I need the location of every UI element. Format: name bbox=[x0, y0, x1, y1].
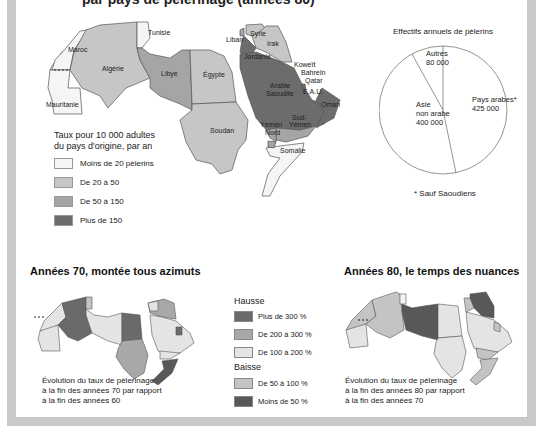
legend-label: De 200 à 300 % bbox=[258, 330, 312, 339]
caption-line1: Évolution du taux de pèlerinage bbox=[345, 376, 465, 386]
map80-tunisie bbox=[400, 294, 406, 304]
legend-label: Moins de 20 pèlerins bbox=[80, 159, 154, 168]
caption-line1: Évolution du taux de pèlerinage bbox=[42, 376, 162, 386]
map70-tunisie bbox=[86, 297, 92, 309]
label-libye: Libye bbox=[161, 70, 178, 78]
legend-label: Moins de 50 % bbox=[258, 397, 308, 406]
legend-title-line1: Taux pour 10 000 adultes bbox=[54, 130, 155, 141]
map-80 bbox=[342, 290, 522, 385]
label-sud-yemen-2: Yémen bbox=[289, 121, 311, 129]
pie-label-autres-name: Autres bbox=[426, 49, 449, 58]
legend-item-50-150: De 50 à 150 bbox=[54, 196, 124, 207]
caption-line2: à la fin des années 70 par rapport bbox=[42, 386, 162, 396]
legend-label: De 100 à 200 % bbox=[258, 348, 312, 357]
map70-golfe bbox=[176, 327, 182, 335]
pie-label-asie-value: 400 000 bbox=[416, 118, 450, 127]
frame-left bbox=[7, 0, 16, 426]
legend-item-lt20: Moins de 20 pèlerins bbox=[54, 158, 154, 169]
pie-label-autres: Autres 80 000 bbox=[426, 49, 449, 67]
legend-baisse-50-100: De 50 à 100 % bbox=[234, 378, 308, 389]
legend-swatch bbox=[54, 196, 73, 207]
map70-soudan bbox=[116, 339, 148, 379]
legend-hausse-100-200: De 100 à 200 % bbox=[234, 347, 312, 358]
map80-libye bbox=[402, 304, 438, 340]
pie-label-autres-value: 80 000 bbox=[426, 58, 449, 67]
pie-label-pays-arabes: Pays arabes* 425 000 bbox=[472, 95, 517, 113]
pie-footnote: * Sauf Saoudiens bbox=[414, 189, 476, 198]
label-liban: Liban bbox=[226, 36, 243, 44]
legend-swatch bbox=[54, 158, 73, 169]
frame-bottom bbox=[7, 417, 536, 426]
label-arabie-1: Arabie bbox=[270, 82, 290, 90]
map70-syrie bbox=[148, 301, 158, 311]
legend-swatch bbox=[234, 378, 253, 389]
label-maroc: Maroc bbox=[68, 46, 87, 54]
legend-title-line2: du pays d'origine, par an bbox=[54, 141, 155, 152]
label-jordanie: Jordanie bbox=[244, 53, 271, 61]
section-80-caption: Évolution du taux de pèlerinage à la fin… bbox=[345, 376, 465, 406]
section-80-title: Années 80, le temps des nuances bbox=[344, 265, 519, 277]
map70-egypte bbox=[122, 313, 142, 341]
map-70 bbox=[30, 293, 200, 385]
legend-label: De 20 à 50 bbox=[80, 178, 119, 187]
label-somalie: Somalie bbox=[280, 147, 305, 155]
pie-label-asie-line2: non arabe bbox=[416, 109, 450, 118]
legend-swatch bbox=[234, 347, 253, 358]
label-egypte: Égypte bbox=[203, 71, 225, 79]
map80-golfe bbox=[494, 322, 500, 332]
legend-item-gt150: Plus de 150 bbox=[54, 215, 122, 226]
label-mauritanie: Mauritanie bbox=[46, 101, 79, 109]
legend-title: Taux pour 10 000 adultes du pays d'origi… bbox=[54, 130, 155, 152]
label-soudan: Soudan bbox=[210, 127, 234, 135]
map70-libye bbox=[86, 309, 122, 345]
label-koweit: Koweït bbox=[294, 61, 315, 69]
infographic-panel: par pays de pèlerinage (années 80) bbox=[16, 0, 527, 417]
section-70-caption: Évolution du taux de pèlerinage à la fin… bbox=[42, 376, 162, 406]
legend-swatch bbox=[234, 396, 253, 407]
section-70-title: Années 70, montée tous azimuts bbox=[30, 265, 201, 277]
label-bahrein: Bahreïn bbox=[301, 69, 326, 77]
legend-swatch bbox=[234, 329, 253, 340]
map70-arabie bbox=[150, 315, 194, 355]
label-algerie: Algérie bbox=[102, 65, 124, 73]
label-qatar: Qatar bbox=[305, 77, 323, 85]
pie-label-arabes-name: Pays arabes* bbox=[472, 95, 517, 104]
caption-line3: à la fin des années 60 bbox=[42, 396, 162, 406]
legend-hausse-200-300: De 200 à 300 % bbox=[234, 329, 312, 340]
caption-line2: à la fin des années 80 par rapport bbox=[345, 386, 465, 396]
pie-label-arabes-value: 425 000 bbox=[472, 104, 517, 113]
pie-label-asie: Asie non arabe 400 000 bbox=[416, 100, 450, 127]
map80-soudan bbox=[434, 336, 466, 378]
map80-somalie bbox=[470, 358, 498, 385]
label-tunisie: Tunisie bbox=[148, 29, 170, 37]
legend-hausse-title: Hausse bbox=[234, 296, 265, 306]
legend-swatch bbox=[234, 311, 253, 322]
legend-hausse-gt300: Plus de 300 % bbox=[234, 311, 306, 322]
legend-swatch bbox=[54, 177, 73, 188]
label-syrie: Syrie bbox=[250, 30, 266, 38]
label-eau: E.A.U. bbox=[303, 88, 323, 96]
legend-baisse-lt50: Moins de 50 % bbox=[234, 396, 308, 407]
label-yemen-nord-2: Nord bbox=[265, 129, 280, 137]
caption-line3: à la fin des années 70 bbox=[345, 396, 465, 406]
label-arabie-2: Saoudite bbox=[266, 90, 294, 98]
country-soudan bbox=[180, 102, 248, 174]
legend-label: Plus de 300 % bbox=[258, 312, 306, 321]
country-liban bbox=[240, 28, 244, 36]
frame-right bbox=[527, 0, 536, 426]
legend-label: De 50 à 150 bbox=[80, 197, 124, 206]
label-yemen-nord-1: Yémen bbox=[260, 121, 282, 129]
legend-label: Plus de 150 bbox=[80, 216, 122, 225]
legend-baisse-title: Baisse bbox=[234, 362, 261, 372]
legend-label: De 50 à 100 % bbox=[258, 379, 308, 388]
map80-egypte bbox=[438, 304, 462, 338]
legend-swatch bbox=[54, 215, 73, 226]
pie-title: Effectifs annuels de pèlerins bbox=[393, 27, 493, 36]
map80-arabie bbox=[466, 312, 512, 354]
label-irak: Irak bbox=[267, 40, 279, 48]
legend-item-20-50: De 20 à 50 bbox=[54, 177, 119, 188]
label-oman: Oman bbox=[321, 101, 340, 109]
pie-label-asie-line1: Asie bbox=[416, 100, 450, 109]
